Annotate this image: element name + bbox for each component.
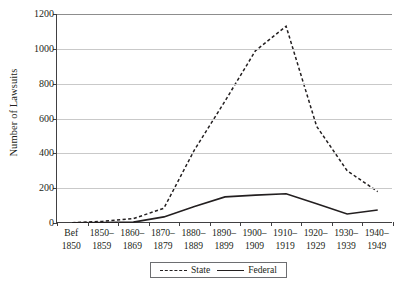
x-tick-mark: [332, 222, 333, 226]
legend-item-state[interactable]: State: [160, 264, 210, 276]
x-label-line-1: 1940–: [355, 227, 399, 240]
plot-area: 020040060080010001200: [56, 14, 392, 223]
gridline-800: [57, 84, 392, 85]
legend-swatch-solid-icon: [217, 270, 244, 271]
y-tick-label: 200: [39, 181, 54, 194]
gridline-1000: [57, 49, 392, 50]
y-tick-label: 400: [39, 146, 54, 159]
x-tick-mark: [240, 222, 241, 226]
x-tick-mark: [301, 222, 302, 226]
y-tick-label: 1000: [34, 42, 54, 55]
legend-swatch-dashed-icon: [160, 270, 187, 271]
gridline-400: [57, 153, 392, 154]
series-line-federal: [72, 194, 377, 223]
x-axis-labels: Bef18501850–18591860–18691870–18791880–1…: [56, 227, 392, 257]
x-tick-label-10: 1940–1949: [355, 227, 399, 252]
x-tick-mark: [88, 222, 89, 226]
x-label-line-2: 1949: [355, 240, 399, 253]
legend-label-state: State: [191, 264, 210, 276]
gridline-200: [57, 188, 392, 189]
y-tick-label: 1200: [34, 7, 54, 20]
y-tick-label: 800: [39, 77, 54, 90]
y-tick-label: 600: [39, 112, 54, 125]
x-tick-mark: [118, 222, 119, 226]
gridline-1200: [57, 14, 392, 15]
x-tick-mark: [57, 222, 58, 226]
x-tick-mark: [362, 222, 363, 226]
legend-item-federal[interactable]: Federal: [217, 264, 277, 276]
x-tick-mark: [393, 222, 394, 226]
gridline-600: [57, 119, 392, 120]
chart-legend: State Federal: [150, 262, 287, 278]
x-tick-mark: [179, 222, 180, 226]
y-axis-title: Number of Lawsuits: [2, 0, 24, 225]
y-axis-title-text: Number of Lawsuits: [8, 68, 19, 156]
x-tick-mark: [210, 222, 211, 226]
lawsuits-line-chart: Number of Lawsuits 020040060080010001200…: [0, 0, 405, 285]
legend-label-federal: Federal: [248, 264, 277, 276]
x-tick-mark: [271, 222, 272, 226]
x-tick-mark: [149, 222, 150, 226]
series-line-state: [72, 26, 377, 222]
